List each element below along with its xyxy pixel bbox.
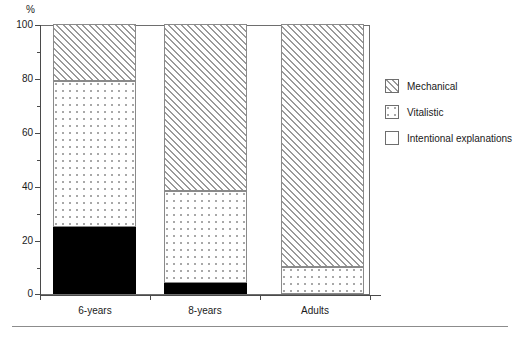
legend-label-vitalistic: Vitalistic <box>407 107 444 118</box>
x-tick-div-2 <box>260 295 261 300</box>
legend-item-mechanical[interactable]: Mechanical <box>385 73 512 99</box>
x-tick-div-1 <box>150 295 151 300</box>
x-axis-label-8-years: 8-years <box>150 305 260 316</box>
x-axis-label-adults: Adults <box>260 305 370 316</box>
footer-divider <box>12 326 508 327</box>
legend-label-mechanical: Mechanical <box>407 81 458 92</box>
plot-area <box>40 25 370 295</box>
bar-adults-segment-vitalistic[interactable] <box>281 267 364 294</box>
y-tick-label-40: 40 <box>22 182 33 192</box>
bar-8-years-segment-vitalistic[interactable] <box>164 191 247 283</box>
y-tick-20 <box>35 241 40 242</box>
legend-item-intentional[interactable]: Intentional explanations <box>385 125 512 151</box>
blank-swatch-icon <box>385 131 399 145</box>
y-tick-label-100: 100 <box>16 20 33 30</box>
y-tick-label-80: 80 <box>22 74 33 84</box>
bar-6-years-segment-vitalistic[interactable] <box>53 81 136 227</box>
bar-8-years[interactable] <box>164 24 247 294</box>
figure-container: % 100 8 <box>0 0 520 337</box>
y-axis-spine <box>40 25 41 295</box>
y-tick-label-20: 20 <box>22 236 33 246</box>
y-axis-ticks: 100 80 60 40 20 0 <box>0 25 40 295</box>
legend-item-vitalistic[interactable]: Vitalistic <box>385 99 512 125</box>
y-tick-70 <box>37 106 40 107</box>
y-tick-10 <box>37 268 40 269</box>
y-tick-90 <box>37 52 40 53</box>
y-tick-80 <box>35 79 40 80</box>
y-tick-100 <box>35 25 40 26</box>
y-tick-label-60: 60 <box>22 128 33 138</box>
y-axis-unit-label: % <box>26 4 35 15</box>
hatch-swatch-icon <box>385 79 399 93</box>
bar-6-years-segment-mechanical[interactable] <box>53 24 136 81</box>
y-tick-60 <box>35 133 40 134</box>
y-tick-label-0: 0 <box>27 289 33 299</box>
y-tick-40 <box>35 187 40 188</box>
y-tick-50 <box>37 160 40 161</box>
bar-8-years-segment-intentional[interactable] <box>164 283 247 294</box>
x-axis-spine <box>40 295 381 296</box>
bar-6-years-segment-intentional[interactable] <box>53 227 136 295</box>
dots-swatch-icon <box>385 105 399 119</box>
bar-adults-segment-mechanical[interactable] <box>281 24 364 267</box>
x-tick-left <box>40 295 41 300</box>
x-tick-right <box>370 295 371 300</box>
bar-adults[interactable] <box>281 24 364 294</box>
bar-6-years[interactable] <box>53 24 136 294</box>
bar-8-years-segment-mechanical[interactable] <box>164 24 247 191</box>
y-tick-30 <box>37 214 40 215</box>
legend: Mechanical Vitalistic Intentional explan… <box>385 73 512 151</box>
legend-label-intentional: Intentional explanations <box>407 133 512 144</box>
x-axis-label-6-years: 6-years <box>40 305 150 316</box>
